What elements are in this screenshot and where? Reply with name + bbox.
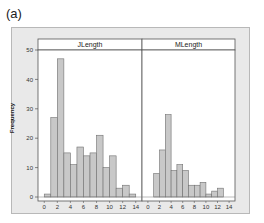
histogram-bar xyxy=(116,188,123,197)
histogram-bar xyxy=(70,165,77,197)
y-tick-label: 0 xyxy=(30,194,34,200)
x-tick-label: 12 xyxy=(214,204,221,210)
histogram-bar xyxy=(44,194,51,197)
histogram-bar xyxy=(77,147,84,197)
histogram-panel-chart: JLengthMLength01020304050024681012140246… xyxy=(0,0,264,223)
y-tick-label: 50 xyxy=(26,47,33,53)
histogram-bar xyxy=(206,194,212,197)
histogram-bar xyxy=(51,118,58,197)
x-tick-label: 4 xyxy=(69,204,73,210)
histogram-bar xyxy=(57,59,64,197)
x-tick-label: 12 xyxy=(119,204,126,210)
y-tick-label: 30 xyxy=(26,106,33,112)
histogram-bar xyxy=(123,185,130,197)
panel-title: JLength xyxy=(78,41,103,49)
y-tick-label: 20 xyxy=(26,135,33,141)
histogram-bar xyxy=(189,185,195,197)
histogram-bar xyxy=(90,153,97,197)
panel-title: MLength xyxy=(175,41,202,49)
x-tick-label: 0 xyxy=(43,204,47,210)
histogram-bar xyxy=(97,135,104,197)
histogram-bar xyxy=(103,168,110,197)
x-tick-label: 10 xyxy=(203,204,210,210)
histogram-bar xyxy=(160,150,166,197)
x-tick-label: 14 xyxy=(132,204,139,210)
x-tick-label: 6 xyxy=(82,204,86,210)
x-tick-label: 8 xyxy=(95,204,99,210)
x-tick-label: 2 xyxy=(158,204,162,210)
histogram-bar xyxy=(110,156,117,197)
y-tick-label: 10 xyxy=(26,165,33,171)
x-tick-label: 2 xyxy=(56,204,60,210)
histogram-bar xyxy=(177,165,183,197)
x-tick-label: 6 xyxy=(181,204,185,210)
histogram-bar xyxy=(200,182,206,197)
histogram-bar xyxy=(129,194,136,197)
histogram-bar xyxy=(83,156,90,197)
histogram-bar xyxy=(183,171,189,197)
y-tick-label: 40 xyxy=(26,77,33,83)
histogram-bar xyxy=(194,185,200,197)
histogram-bar xyxy=(154,173,160,197)
x-tick-label: 0 xyxy=(146,204,150,210)
histogram-bar xyxy=(64,153,71,197)
x-tick-label: 14 xyxy=(226,204,233,210)
histogram-bar xyxy=(165,115,171,197)
histogram-bar xyxy=(218,188,224,197)
x-tick-label: 4 xyxy=(169,204,173,210)
histogram-bar xyxy=(212,191,218,197)
x-tick-label: 8 xyxy=(193,204,197,210)
histogram-bar xyxy=(171,171,177,197)
x-tick-label: 10 xyxy=(106,204,113,210)
